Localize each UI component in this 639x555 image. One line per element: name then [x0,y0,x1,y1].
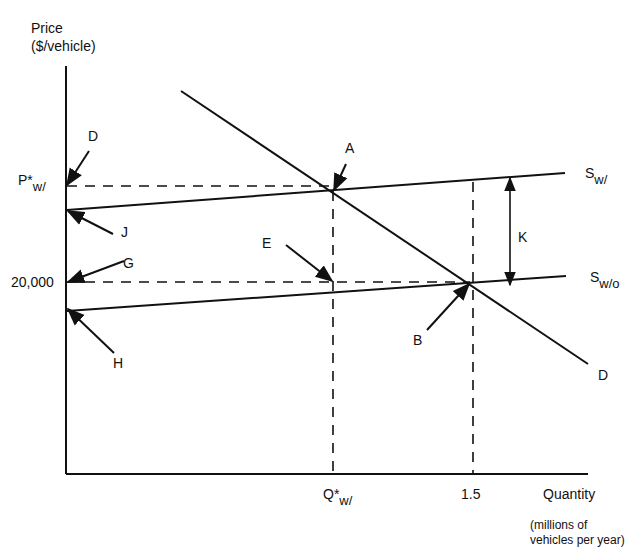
curve-demand [181,91,588,364]
x-tick-qstar: Q*w/ [323,486,352,503]
annotation-k: K [518,229,527,245]
arrow-a [334,164,346,190]
arrow-d [67,151,89,185]
annotation-b: B [413,332,422,348]
chart-canvas [0,0,639,555]
annotation-g: G [123,255,134,271]
x-axis-label: Quantity [543,486,595,502]
series-label-supply-with: Sw/ [585,165,607,182]
arrow-e [286,245,332,281]
y-axis-label-line2: ($/vehicle) [31,37,96,55]
y-tick-20000: 20,000 [11,274,54,290]
y-tick-pstar: P*w/ [18,172,46,189]
curve-supply-with [67,173,565,210]
annotation-e: E [262,235,271,251]
y-axis-label: Price ($/vehicle) [31,19,96,55]
y-axis-label-line1: Price [31,19,96,37]
annotation-a: A [345,140,354,156]
annotation-j: J [121,224,128,240]
annotation-d: D [88,128,98,144]
arrow-j [68,211,113,234]
series-label-demand: D [598,367,608,383]
arrow-h [68,309,114,353]
arrow-g [68,261,124,282]
series-label-supply-without: Sw/o [590,269,620,286]
x-tick-1-5: 1.5 [461,486,480,502]
x-axis-unit: (millions of vehicles per year) [530,518,625,548]
annotation-h: H [113,355,123,371]
arrow-b [427,284,469,330]
